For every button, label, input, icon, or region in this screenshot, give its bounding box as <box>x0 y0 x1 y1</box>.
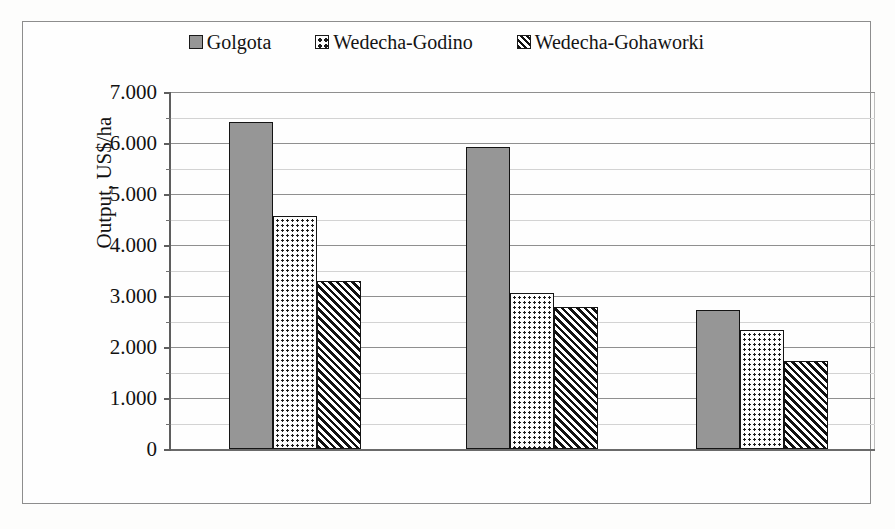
y-axis-tick-label: 1.000 <box>23 386 157 411</box>
legend-item-wedecha-gohaworki[interactable]: Wedecha-Gohaworki <box>517 32 704 52</box>
bar-wedecha-godino-group-3[interactable] <box>740 330 784 449</box>
solid-gray-square-icon <box>189 35 203 49</box>
hatched-square-icon <box>517 35 531 49</box>
y-tick-mark <box>164 449 171 451</box>
plot-area <box>169 92 875 451</box>
y-tick-mark <box>164 194 171 196</box>
scan-artifact <box>290 2 295 22</box>
y-axis-tick-label: 4.000 <box>23 233 157 258</box>
chart-legend: Golgota Wedecha-Godino Wedecha-Gohaworki <box>23 32 870 52</box>
legend-label-wedecha-godino: Wedecha-Godino <box>333 32 472 52</box>
y-tick-mark <box>164 347 171 349</box>
y-axis-tick-label: 5.000 <box>23 182 157 207</box>
y-axis-tick-label: 0 <box>23 437 157 462</box>
chart-page: Golgota Wedecha-Godino Wedecha-Gohaworki… <box>0 0 895 529</box>
dotted-square-icon <box>315 35 329 49</box>
y-axis-tick-label: 3.000 <box>23 284 157 309</box>
y-tick-mark <box>164 398 171 400</box>
legend-item-golgota[interactable]: Golgota <box>189 32 271 52</box>
bar-wedecha-gohaworki-group-3[interactable] <box>784 361 828 449</box>
y-axis-tick-label: 2.000 <box>23 335 157 360</box>
legend-label-wedecha-gohaworki: Wedecha-Gohaworki <box>535 32 704 52</box>
chart-frame: Golgota Wedecha-Godino Wedecha-Gohaworki… <box>22 21 871 504</box>
y-tick-mark <box>164 296 171 298</box>
legend-item-wedecha-godino[interactable]: Wedecha-Godino <box>315 32 472 52</box>
bar-golgota-group-3[interactable] <box>696 310 740 449</box>
y-axis-tick-label: 6.000 <box>23 131 157 156</box>
y-tick-mark <box>164 143 171 145</box>
bar-group <box>171 92 875 449</box>
y-tick-mark <box>164 245 171 247</box>
y-axis-tick-label: 7.000 <box>23 80 157 105</box>
legend-label-golgota: Golgota <box>207 32 271 52</box>
y-tick-mark <box>164 92 171 94</box>
